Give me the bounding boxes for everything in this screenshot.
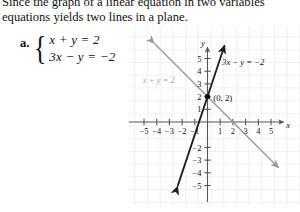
svg-text:4: 4 [256, 127, 261, 136]
left-brace: { [34, 31, 46, 65]
svg-text:3: 3 [197, 80, 201, 89]
svg-text:1: 1 [197, 105, 201, 114]
svg-text:5: 5 [197, 55, 201, 64]
plotted-lines: x + y = 23x − y = −2 [142, 43, 279, 186]
svg-text:−5: −5 [140, 127, 149, 136]
equation-2: 3x − y = −2 [49, 48, 115, 65]
svg-text:−1: −1 [190, 127, 199, 136]
svg-text:y: y [200, 38, 205, 48]
svg-text:−5: −5 [193, 182, 202, 191]
svg-text:−3: −3 [193, 156, 202, 165]
textbook-figure-page: Since the graph of a linear equation in … [0, 0, 300, 212]
intro-line-1: Since the graph of a linear equation in … [2, 0, 298, 10]
part-label-a: a. [20, 36, 29, 51]
svg-text:−2: −2 [178, 127, 187, 136]
svg-text:2: 2 [231, 127, 235, 136]
intro-line-2: equations yields two lines in a plane. [2, 10, 298, 25]
svg-text:−3: −3 [165, 127, 174, 136]
svg-text:2: 2 [197, 93, 201, 102]
svg-text:3: 3 [244, 127, 248, 136]
svg-text:1: 1 [218, 127, 222, 136]
equation-stack: x + y = 2 3x − y = −2 [49, 31, 115, 65]
line-label-3x-minus-y: 3x − y = −2 [221, 57, 265, 67]
line-label-x-plus-y: x + y = 2 [142, 75, 176, 85]
background-grid [128, 26, 300, 206]
equation-system: { x + y = 2 3x − y = −2 [32, 31, 115, 65]
intersection-point [205, 94, 210, 99]
intro-paragraph: Since the graph of a linear equation in … [2, 0, 298, 25]
svg-text:−4: −4 [193, 169, 203, 178]
svg-text:x: x [285, 120, 290, 130]
intersection-point-label: (0, 2) [213, 93, 232, 103]
coordinate-plane-panel: xy x + y = 23x − y = −2 −5−4−3−2−1123455… [128, 26, 300, 206]
equation-1: x + y = 2 [49, 31, 115, 48]
svg-text:−2: −2 [193, 144, 202, 153]
annotations: (0, 2) [205, 93, 233, 103]
svg-text:−4: −4 [152, 127, 162, 136]
svg-text:5: 5 [269, 127, 273, 136]
coordinate-plane-svg: xy x + y = 23x − y = −2 −5−4−3−2−1123455… [128, 26, 300, 206]
